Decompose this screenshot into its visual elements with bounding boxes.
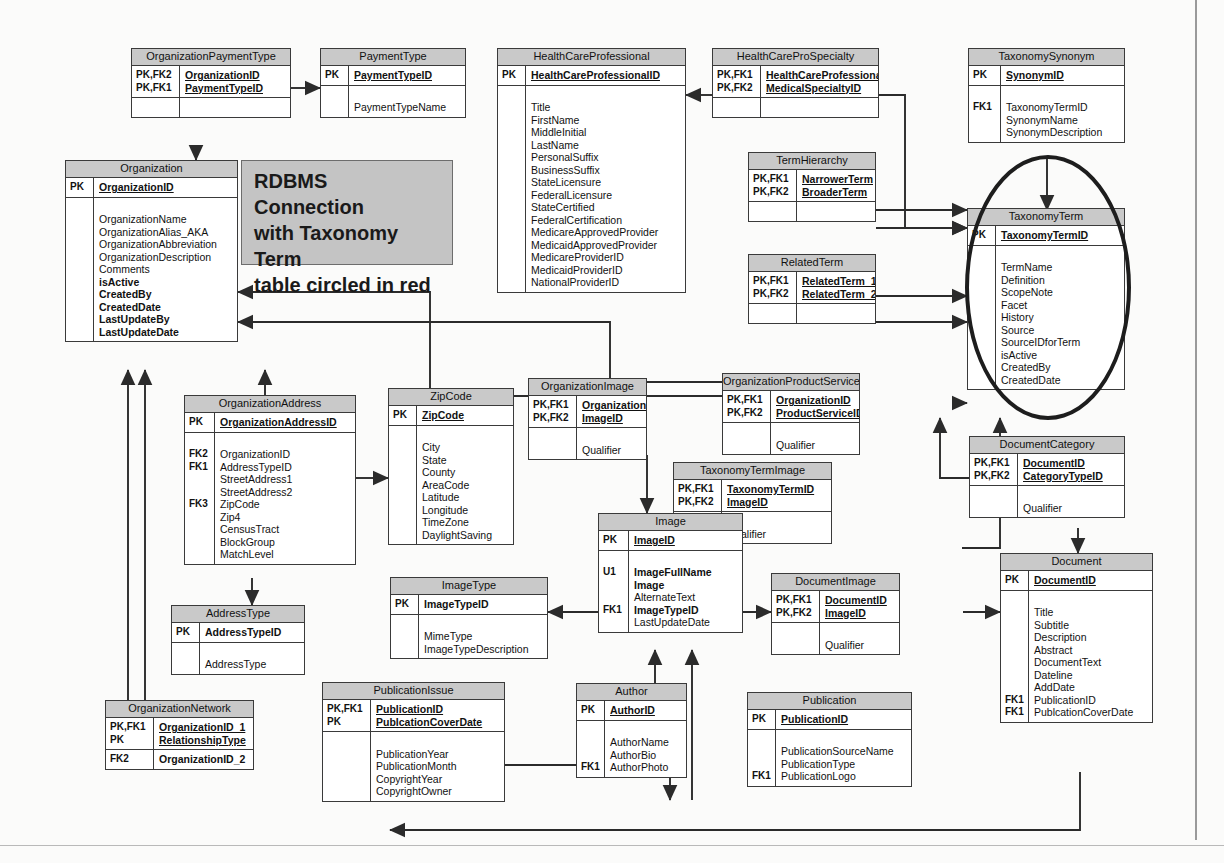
pk-key-column: PK,FK1PK,FK2 [723,391,771,422]
attribute-key-column: FK2 [106,750,154,769]
entity-table-publication-issue[interactable]: PublicationIssuePK,FK1PKPublicationIDPub… [322,682,505,802]
pk-key-column: PK [498,66,526,85]
taxonomy-term-highlight-circle [965,155,1131,420]
attribute-key-column: U1 FK1 [599,551,629,632]
entity-table-organization-address[interactable]: OrganizationAddressPKOrganizationAddress… [184,395,356,565]
attribute-key-column [498,86,526,292]
pk-field-column: PublicationID [776,710,911,729]
pk-key-column: PK,FK1PK,FK2 [749,272,797,303]
pk-key-column: PK [185,413,215,432]
page-border-bottom [0,845,1224,846]
entity-table-payment-type[interactable]: PaymentTypePKPaymentTypeID PaymentTypeNa… [320,48,466,118]
table-pk-section: PK,FK1PKOrganizationID_1RelationshipType [106,718,253,750]
table-pk-section: PK,FK1PK,FK2HealthCareProfessionalIDMedi… [713,66,878,98]
pk-field-column: DocumentIDImageID [820,591,899,622]
attribute-key-column: FK1 [969,86,1001,142]
pk-key-column: PK,FK1PK [106,718,154,749]
attribute-field-column [761,98,878,117]
table-title-author: Author [577,684,686,701]
entity-table-taxonomy-synonym[interactable]: TaxonomySynonymPKSynonymID FK1 TaxonomyT… [968,48,1125,143]
pk-field-column: AddressTypeID [200,623,304,642]
table-title-address-type: AddressType [172,606,304,623]
attribute-key-column [321,86,349,117]
table-pk-section: PK,FK1PK,FK2RelatedTerm_1RelatedTerm_2 [749,272,875,304]
pk-field-column: DocumentIDCategoryTypeID [1018,454,1124,485]
table-attribute-section: FK1 PublicationSourceNamePublicationType… [748,730,911,786]
table-attribute-section: TitleFirstNameMiddleInitialLastNamePerso… [498,86,685,292]
entity-table-author[interactable]: AuthorPKAuthorID FK1 AuthorNameAuthorBio… [576,683,687,778]
pk-field-column: NarrowerTermBroaderTerm [797,170,875,201]
annotation-line-1: RDBMS Connection [254,168,442,220]
table-pk-section: PKImageID [599,531,742,551]
attribute-key-column [723,423,771,454]
table-title-organization-product-service: OrganizationProductService [723,374,859,391]
entity-table-document-image[interactable]: DocumentImagePK,FK1PK,FK2DocumentIDImage… [771,573,900,655]
entity-table-related-term[interactable]: RelatedTermPK,FK1PK,FK2RelatedTerm_1Rela… [748,254,876,324]
attribute-key-column: FK1 [577,721,605,777]
table-attribute-section: Qualifier [772,623,899,654]
entity-table-publication[interactable]: PublicationPKPublicationID FK1 Publicati… [747,692,912,787]
attribute-key-column [713,98,761,117]
entity-table-address-type[interactable]: AddressTypePKAddressTypeID AddressType [171,605,305,675]
entity-table-health-care-professional[interactable]: HealthCareProfessionalPKHealthCareProfes… [497,48,686,293]
table-attribute-section: FK2FK1 FK3 OrganizationIDAddressTypeIDSt… [185,433,355,564]
pk-field-column: HealthCareProfessionalIDMedicalSpecialty… [761,66,878,97]
entity-table-organization[interactable]: OrganizationPKOrganizationID Organizatio… [65,160,238,342]
attribute-field-column: PublicationSourceNamePublicationTypePubl… [776,730,911,786]
attribute-key-column [749,304,797,323]
attribute-key-column [529,428,577,459]
table-pk-section: PKPublicationID [748,710,911,730]
page-border-right [1195,0,1197,840]
pk-key-column: PK,FK2PK,FK1 [132,66,180,97]
pk-key-column: PK [599,531,629,550]
table-pk-section: PK,FK1PK,FK2DocumentIDCategoryTypeID [970,454,1124,486]
table-attribute-section: FK1FK1 TitleSubtitleDescriptionAbstractD… [1001,591,1152,722]
table-pk-section: PKPaymentTypeID [321,66,465,86]
entity-table-organization-payment-type[interactable]: OrganizationPaymentTypePK,FK2PK,FK1Organ… [131,48,291,118]
annotation-callout: RDBMS Connection with Taxonomy Term tabl… [241,160,453,265]
table-pk-section: PK,FK1PK,FK2NarrowerTermBroaderTerm [749,170,875,202]
pk-field-column: ImageID [629,531,742,550]
pk-key-column: PK,FK1PK,FK2 [970,454,1018,485]
table-attribute-section [749,304,875,323]
pk-key-column: PK,FK1PK,FK2 [529,396,577,427]
table-pk-section: PKAddressTypeID [172,623,304,643]
entity-table-image-type[interactable]: ImageTypePKImageTypeID MimeTypeImageType… [390,577,548,659]
attribute-key-column [391,615,419,659]
pk-field-column: PaymentTypeID [349,66,465,85]
attribute-key-column [323,732,371,801]
table-title-organization: Organization [66,161,237,178]
table-title-organization-payment-type: OrganizationPaymentType [132,49,290,66]
attribute-field-column [797,304,875,323]
entity-table-term-hierarchy[interactable]: TermHierarchyPK,FK1PK,FK2NarrowerTermBro… [748,152,876,222]
table-attribute-section: AddressType [172,643,304,674]
table-title-term-hierarchy: TermHierarchy [749,153,875,170]
table-attribute-section: U1 FK1 ImageFullNameImageAlternateTextIm… [599,551,742,632]
table-pk-section: PK,FK1PK,FK2OrganizationIDImageID [529,396,646,428]
attribute-field-column [180,98,290,117]
attribute-key-column: FK1FK1 [1001,591,1029,722]
table-pk-section: PK,FK1PK,FK2OrganizationIDProductService… [723,391,859,423]
attribute-field-column: ImageFullNameImageAlternateTextImageType… [629,551,742,632]
entity-table-document[interactable]: DocumentPKDocumentID FK1FK1 TitleSubtitl… [1000,553,1153,723]
table-title-health-care-professional: HealthCareProfessional [498,49,685,66]
attribute-key-column [172,643,200,674]
entity-table-organization-network[interactable]: OrganizationNetworkPK,FK1PKOrganizationI… [105,700,254,770]
entity-table-image[interactable]: ImagePKImageID U1 FK1 ImageFullNameImage… [598,513,743,633]
pk-field-column: ZipCode [417,406,513,425]
entity-table-zip-code[interactable]: ZipCodePKZipCode CityStateCountyAreaCode… [388,388,514,545]
table-title-organization-address: OrganizationAddress [185,396,355,413]
table-title-document: Document [1001,554,1152,571]
entity-table-document-category[interactable]: DocumentCategoryPK,FK1PK,FK2DocumentIDCa… [969,436,1125,518]
entity-table-organization-product-service[interactable]: OrganizationProductServicePK,FK1PK,FK2Or… [722,373,860,455]
table-pk-section: PK,FK1PK,FK2TaxonomyTermIDImageID [674,480,831,512]
pk-field-column: ImageTypeID [419,595,547,614]
attribute-key-column [389,426,417,545]
pk-key-column: PK [172,623,200,642]
pk-field-column: PublicationIDPublcationCoverDate [371,700,504,731]
attribute-field-column: AuthorNameAuthorBioAuthorPhoto [605,721,686,777]
entity-table-health-care-pro-specialty[interactable]: HealthCareProSpecialtyPK,FK1PK,FK2Health… [712,48,879,118]
entity-table-organization-image[interactable]: OrganizationImagePK,FK1PK,FK2Organizatio… [528,378,647,460]
table-attribute-section: PaymentTypeName [321,86,465,117]
attribute-field-column: TaxonomyTermIDSynonymNameSynonymDescript… [1001,86,1124,142]
